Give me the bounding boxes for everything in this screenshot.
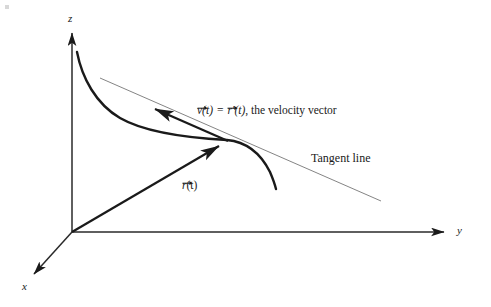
x-axis-label: x	[22, 281, 27, 292]
r-symbol: r	[227, 104, 231, 116]
vector-calculus-diagram: z y x v(t)=r′(t), the velocity vector r(…	[0, 0, 491, 307]
space-curve	[77, 52, 276, 189]
r-symbol: r	[182, 179, 186, 191]
r-symbol-with-arrow: r	[227, 105, 231, 117]
diagram-canvas	[0, 0, 491, 307]
v-argument: (t)	[202, 104, 213, 116]
y-axis-label: y	[457, 225, 462, 236]
v-symbol-with-arrow: v	[197, 105, 202, 117]
velocity-description: , the velocity vector	[245, 104, 336, 116]
equals-sign: =	[213, 104, 228, 116]
r-symbol-with-arrow: r	[182, 180, 186, 192]
r-argument: (t)	[186, 179, 197, 191]
tangent-line-label: Tangent line	[311, 152, 370, 164]
x-axis	[34, 232, 72, 274]
velocity-vector-label: v(t)=r′(t), the velocity vector	[197, 105, 337, 117]
position-vector-label: r(t)	[182, 180, 197, 192]
tangent-line	[100, 78, 381, 201]
r-argument: (t)	[234, 104, 245, 116]
z-axis-label: z	[68, 13, 72, 24]
v-symbol: v	[197, 104, 202, 116]
